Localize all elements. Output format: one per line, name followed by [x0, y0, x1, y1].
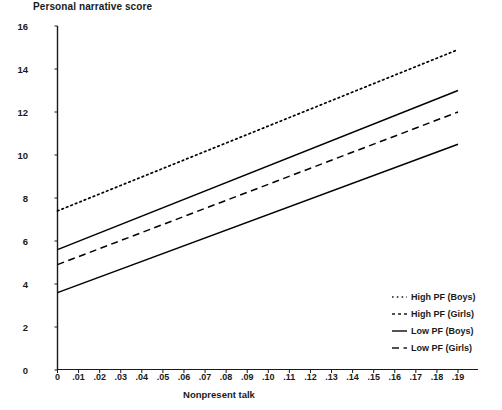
legend-swatch-icon — [392, 343, 408, 353]
y-tick-label: 12 — [0, 107, 28, 118]
y-tick-label: 6 — [0, 236, 28, 247]
chart-legend: High PF (Boys)High PF (Girls)Low PF (Boy… — [392, 288, 476, 356]
legend-label: Low PF (Girls) — [411, 343, 472, 353]
series-line — [58, 50, 459, 211]
y-tick-label: 16 — [0, 21, 28, 32]
legend-label: Low PF (Boys) — [411, 326, 474, 336]
legend-item: Low PF (Girls) — [392, 339, 476, 356]
y-tick-label: 0 — [0, 365, 28, 376]
legend-item: High PF (Girls) — [392, 305, 476, 322]
legend-label: High PF (Girls) — [411, 309, 474, 319]
legend-label: High PF (Boys) — [411, 292, 476, 302]
x-axis-title-text: Nonpresent talk — [183, 389, 255, 400]
legend-swatch-icon — [392, 309, 408, 319]
legend-swatch-icon — [392, 326, 408, 336]
x-axis-title: Nonpresent talk — [0, 389, 502, 400]
series-line — [58, 91, 459, 250]
legend-item: High PF (Boys) — [392, 288, 476, 305]
y-tick-label: 2 — [0, 322, 28, 333]
chart-figure: Personal narrative score 0246810121416 0… — [0, 0, 502, 410]
y-tick-label: 4 — [0, 279, 28, 290]
x-tick-label: .19 — [445, 372, 471, 382]
series-line — [58, 112, 459, 265]
series-line — [58, 144, 459, 292]
y-tick-label: 10 — [0, 150, 28, 161]
legend-swatch-icon — [392, 292, 408, 302]
legend-item: Low PF (Boys) — [392, 322, 476, 339]
y-tick-label: 14 — [0, 64, 28, 75]
series-lines — [58, 50, 459, 293]
y-tick-label: 8 — [0, 193, 28, 204]
